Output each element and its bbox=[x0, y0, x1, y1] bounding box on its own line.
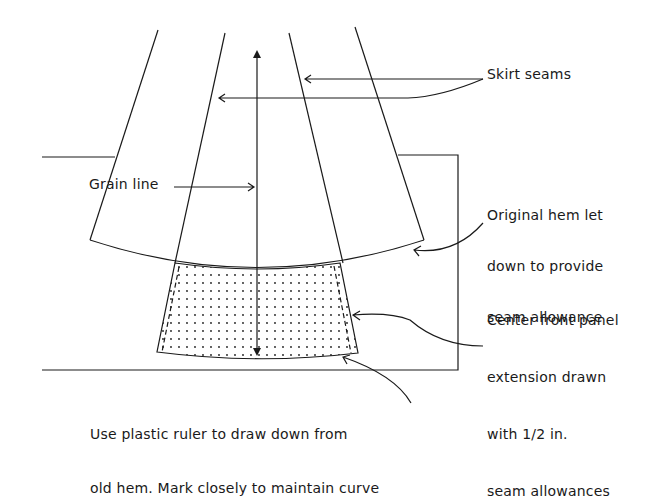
label-skirt-seams: Skirt seams bbox=[487, 66, 571, 83]
label-center-front: Center front panel extension drawn with … bbox=[487, 273, 619, 500]
skirt-left-edge bbox=[90, 30, 158, 240]
center-front-line-3: with 1/2 in. bbox=[487, 425, 619, 444]
skirt-seam-right bbox=[289, 33, 343, 263]
center-front-line-2: extension drawn bbox=[487, 368, 619, 387]
skirt-right-edge bbox=[355, 27, 424, 240]
ruler-note-line-1: Use plastic ruler to draw down from bbox=[90, 425, 379, 443]
grain-arrow-top-icon bbox=[253, 50, 261, 58]
center-front-line-4: seam allowances bbox=[487, 482, 619, 500]
center-front-line-1: Center front panel bbox=[487, 311, 619, 330]
skirt-seams-pointer-2 bbox=[219, 79, 483, 102]
label-grain-line: Grain line bbox=[89, 176, 159, 193]
skirt-seam-left bbox=[175, 33, 225, 263]
label-ruler-note: Use plastic ruler to draw down from old … bbox=[90, 389, 379, 500]
original-hem-line-1: Original hem let bbox=[487, 207, 603, 224]
ruler-note-line-2: old hem. Mark closely to maintain curve bbox=[90, 479, 379, 497]
center-front-pointer bbox=[353, 311, 483, 346]
skirt-seams-pointer-1 bbox=[305, 75, 483, 83]
grain-line-pointer bbox=[174, 183, 254, 191]
